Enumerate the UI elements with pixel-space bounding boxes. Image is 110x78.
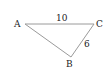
- edge-cb: [71, 24, 94, 57]
- edge-label-cb: 6: [84, 39, 90, 49]
- triangle-diagram: A C B 10 6: [0, 0, 110, 78]
- edge-ab: [25, 24, 71, 57]
- edge-label-ac: 10: [56, 13, 68, 23]
- vertex-label-c: C: [96, 19, 103, 29]
- vertex-label-b: B: [66, 59, 73, 69]
- vertex-label-a: A: [13, 19, 21, 29]
